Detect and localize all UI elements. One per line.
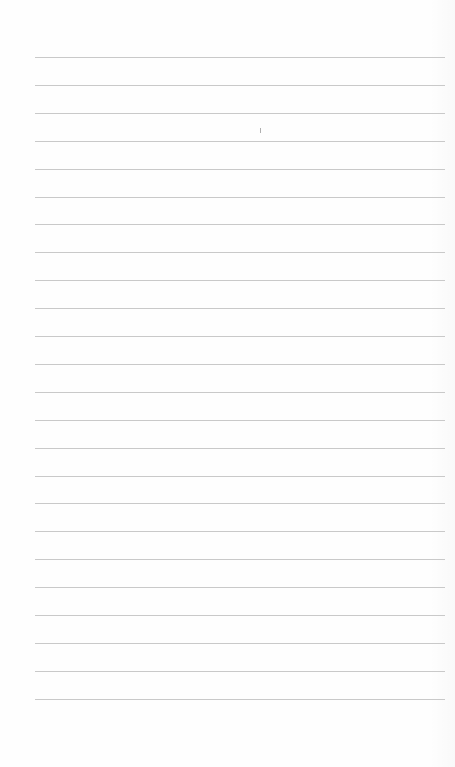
ruled-line	[35, 559, 445, 560]
ruled-line	[35, 113, 445, 114]
ruled-line	[35, 252, 445, 253]
ruled-line	[35, 197, 445, 198]
ruled-line	[35, 671, 445, 672]
ruled-line	[35, 587, 445, 588]
page-edge-shadow	[429, 0, 455, 767]
ruled-line	[35, 308, 445, 309]
ruled-line	[35, 420, 445, 421]
lined-paper-page	[0, 0, 455, 767]
ruled-line	[35, 643, 445, 644]
ruled-line	[35, 392, 445, 393]
ruled-line	[35, 448, 445, 449]
ruled-line	[35, 699, 445, 700]
ruled-line	[35, 85, 445, 86]
ruled-line	[35, 615, 445, 616]
ruled-line	[35, 503, 445, 504]
ruled-line	[35, 141, 445, 142]
pencil-mark	[260, 128, 261, 133]
ruled-line	[35, 476, 445, 477]
ruled-line	[35, 531, 445, 532]
ruled-line	[35, 57, 445, 58]
ruled-line	[35, 169, 445, 170]
ruled-line	[35, 280, 445, 281]
ruled-line	[35, 224, 445, 225]
ruled-line	[35, 336, 445, 337]
ruled-line	[35, 364, 445, 365]
